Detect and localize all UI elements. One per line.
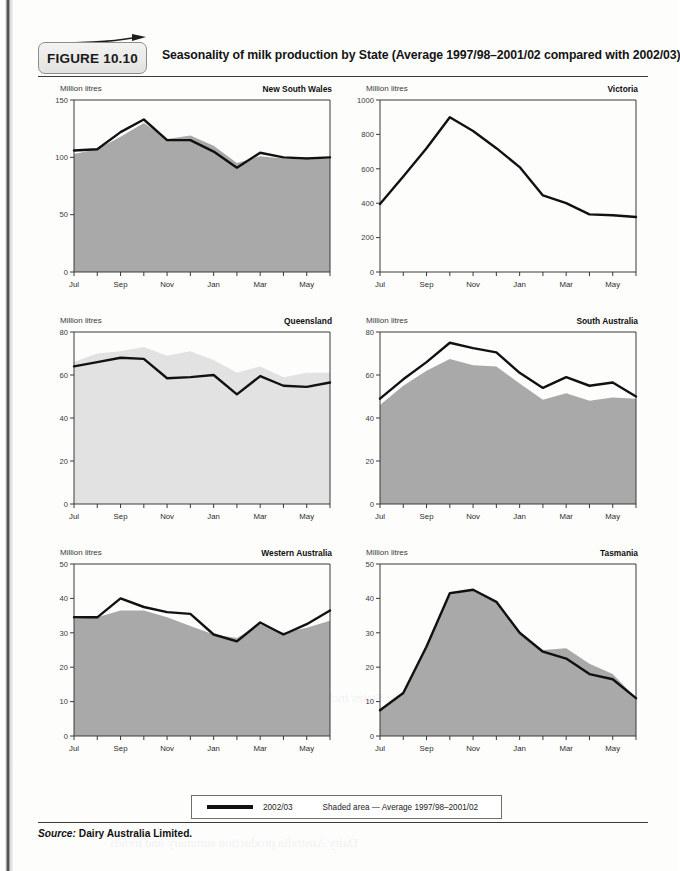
chart-title: New South Wales [263, 84, 333, 94]
legend-line-label: 2002/03 [263, 803, 293, 812]
svg-text:20: 20 [60, 663, 68, 672]
svg-text:0: 0 [370, 268, 374, 277]
svg-text:Jan: Jan [513, 744, 526, 753]
y-axis-unit-label: Million litres [366, 84, 408, 93]
chart-plot: 01020304050JulSepNovJanMarMay [38, 558, 338, 773]
y-axis-unit-label: Million litres [60, 316, 102, 325]
svg-text:50: 50 [60, 210, 68, 219]
legend-line-swatch [207, 805, 253, 808]
chart-panel-new-south-wales: Million litres New South Wales 050100150… [38, 84, 338, 314]
chart-plot: 050100150JulSepNovJanMarMay [38, 94, 338, 309]
svg-text:Sep: Sep [114, 512, 129, 521]
svg-text:10: 10 [60, 697, 68, 706]
svg-text:100: 100 [55, 153, 68, 162]
svg-text:Sep: Sep [114, 744, 129, 753]
svg-text:Sep: Sep [114, 280, 129, 289]
y-axis-unit-label: Million litres [60, 84, 102, 93]
svg-text:Sep: Sep [420, 280, 435, 289]
svg-text:60: 60 [366, 371, 374, 380]
chart-plot: 020406080JulSepNovJanMarMay [344, 326, 644, 541]
svg-text:0: 0 [370, 500, 374, 509]
svg-text:May: May [299, 512, 314, 521]
chart-title: Victoria [607, 84, 638, 94]
svg-text:20: 20 [366, 457, 374, 466]
svg-text:Nov: Nov [160, 280, 174, 289]
chart-legend: 2002/03 Shaded area — Average 1997/98–20… [191, 795, 502, 819]
y-axis-unit-label: Million litres [366, 548, 408, 557]
chart-title: Western Australia [261, 548, 332, 558]
svg-text:Jan: Jan [207, 512, 220, 521]
svg-text:800: 800 [361, 130, 374, 139]
y-axis-unit-label: Million litres [366, 316, 408, 325]
svg-text:Jan: Jan [513, 280, 526, 289]
svg-text:Mar: Mar [253, 280, 267, 289]
chart-plot: 02004006008001000JulSepNovJanMarMay [344, 94, 644, 309]
source-text: Dairy Australia Limited. [79, 828, 192, 839]
svg-text:400: 400 [361, 199, 374, 208]
svg-text:0: 0 [64, 268, 68, 277]
source-note: Source: Dairy Australia Limited. [38, 828, 192, 839]
svg-text:Jul: Jul [69, 512, 79, 521]
svg-text:50: 50 [366, 560, 374, 569]
svg-text:May: May [605, 744, 620, 753]
source-prefix: Source: [38, 828, 76, 839]
svg-text:Jan: Jan [207, 744, 220, 753]
figure-number-box: FIGURE 10.10 [38, 42, 147, 74]
chart-plot: 01020304050JulSepNovJanMarMay [344, 558, 644, 773]
svg-text:Nov: Nov [466, 512, 480, 521]
svg-text:80: 80 [366, 328, 374, 337]
svg-text:Nov: Nov [466, 280, 480, 289]
svg-text:10: 10 [366, 697, 374, 706]
svg-text:May: May [605, 280, 620, 289]
svg-text:May: May [299, 744, 314, 753]
svg-text:Sep: Sep [420, 512, 435, 521]
svg-text:0: 0 [370, 732, 374, 741]
svg-text:0: 0 [64, 500, 68, 509]
svg-text:30: 30 [366, 629, 374, 638]
svg-text:Mar: Mar [253, 512, 267, 521]
svg-text:Jul: Jul [375, 512, 385, 521]
svg-text:Jul: Jul [375, 280, 385, 289]
svg-text:40: 40 [60, 414, 68, 423]
svg-text:1000: 1000 [357, 96, 374, 105]
svg-text:May: May [605, 512, 620, 521]
svg-text:20: 20 [60, 457, 68, 466]
svg-text:30: 30 [60, 629, 68, 638]
svg-text:Mar: Mar [559, 280, 573, 289]
svg-text:Jan: Jan [207, 280, 220, 289]
svg-text:Mar: Mar [559, 744, 573, 753]
svg-text:Sep: Sep [420, 744, 435, 753]
y-axis-unit-label: Million litres [60, 548, 102, 557]
svg-text:May: May [299, 280, 314, 289]
chart-title: Queensland [284, 316, 332, 326]
svg-text:Mar: Mar [559, 512, 573, 521]
svg-text:Jul: Jul [375, 744, 385, 753]
chart-title: Tasmania [600, 548, 638, 558]
svg-text:40: 40 [366, 594, 374, 603]
svg-text:40: 40 [60, 594, 68, 603]
chart-plot: 020406080JulSepNovJanMarMay [38, 326, 338, 541]
svg-text:60: 60 [60, 371, 68, 380]
svg-text:200: 200 [361, 233, 374, 242]
svg-text:Mar: Mar [253, 744, 267, 753]
svg-text:Nov: Nov [160, 744, 174, 753]
chart-panel-tasmania: Million litres Tasmania 01020304050JulSe… [344, 548, 644, 778]
svg-text:Jul: Jul [69, 280, 79, 289]
chart-panel-victoria: Million litres Victoria 0200400600800100… [344, 84, 644, 314]
book-spine-edge [0, 0, 13, 871]
svg-text:Nov: Nov [160, 512, 174, 521]
chart-title: South Australia [576, 316, 638, 326]
chart-panel-western-australia: Million litres Western Australia 0102030… [38, 548, 338, 778]
source-divider [38, 822, 648, 823]
svg-text:20: 20 [366, 663, 374, 672]
svg-text:80: 80 [60, 328, 68, 337]
svg-text:150: 150 [55, 96, 68, 105]
chart-panel-south-australia: Million litres South Australia 020406080… [344, 316, 644, 546]
figure-number-label: FIGURE 10.10 [47, 51, 138, 66]
charts-grid: Million litres New South Wales 050100150… [32, 84, 648, 784]
chart-panel-queensland: Million litres Queensland 020406080JulSe… [38, 316, 338, 546]
svg-text:Jul: Jul [69, 744, 79, 753]
figure-header: FIGURE 10.10 Seasonality of milk product… [32, 36, 648, 78]
header-divider [38, 76, 648, 77]
